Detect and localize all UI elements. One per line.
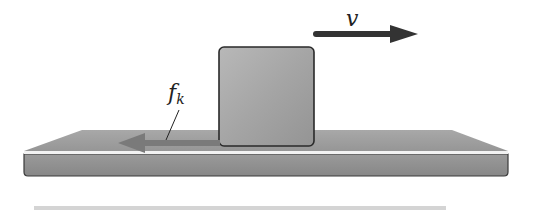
diagram-canvas [0,0,537,211]
friction-label-main: f [168,80,176,105]
velocity-arrow [313,25,418,43]
friction-label-sub: k [176,91,184,107]
surface-front [24,154,508,176]
bottom-strip [34,206,446,210]
velocity-label: v [346,8,358,30]
friction-label: fk [168,82,185,106]
block [219,47,314,146]
surface-highlight [24,151,508,154]
